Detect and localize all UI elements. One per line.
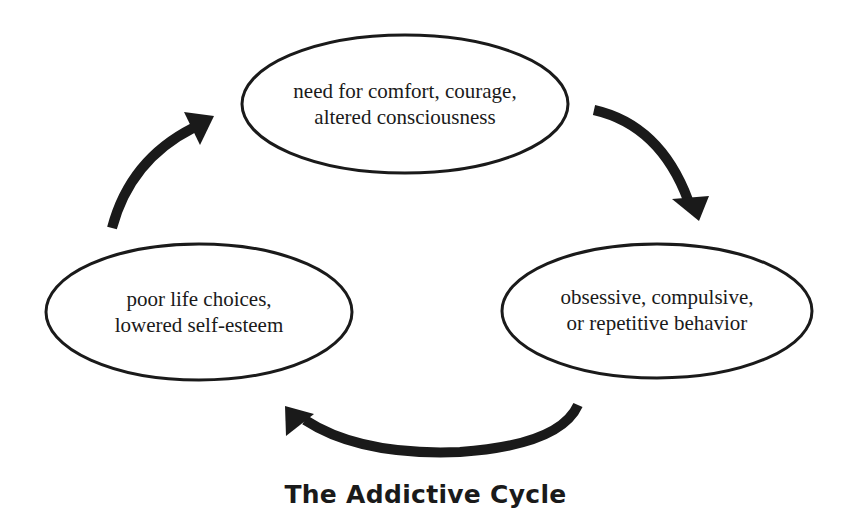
node-need-label: need for comfort, courage, altered consc… [255,78,555,130]
arrow-need-to-behavior-icon [594,110,709,221]
node-behavior-line-1: obsessive, compulsive, [512,284,802,310]
node-behavior-line-2: or repetitive behavior [512,310,802,336]
node-consequences-line-2: lowered self-esteem [54,312,344,338]
node-behavior-label: obsessive, compulsive, or repetitive beh… [512,284,802,336]
arrow-behavior-to-consequences-icon [285,405,578,452]
node-need-line-2: altered consciousness [255,104,555,130]
arrow-consequences-to-need-icon [112,112,214,228]
diagram-title: The Addictive Cycle [0,480,851,509]
node-need-line-1: need for comfort, courage, [255,78,555,104]
node-consequences-line-1: poor life choices, [54,286,344,312]
node-consequences-label: poor life choices, lowered self-esteem [54,286,344,338]
